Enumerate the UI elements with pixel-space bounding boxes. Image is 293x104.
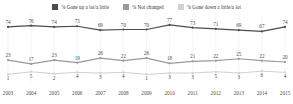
data-point <box>215 60 217 62</box>
x-tick-label: 2014 <box>257 90 267 96</box>
value-label: 19 <box>75 56 80 61</box>
value-label: 25 <box>236 52 241 57</box>
value-label: 23 <box>5 53 10 58</box>
data-point <box>238 58 240 60</box>
data-point <box>215 28 217 30</box>
legend-label-not-changed: % Not changed <box>132 4 164 10</box>
x-tick-label: 2006 <box>72 90 82 96</box>
value-label: 69 <box>98 23 103 28</box>
value-label: 74 <box>52 20 57 25</box>
data-point <box>30 63 32 65</box>
value-label: 20 <box>282 55 287 60</box>
value-label: 18 <box>167 56 172 61</box>
value-label: 4 <box>284 74 287 79</box>
value-label: 73 <box>190 21 195 26</box>
data-point <box>145 28 147 30</box>
value-label: 4 <box>76 74 79 79</box>
x-tick-label: 2004 <box>26 90 36 96</box>
x-tick-label: 2007 <box>95 90 105 96</box>
data-point <box>99 29 101 31</box>
value-label: 67 <box>259 24 264 29</box>
data-point <box>284 61 286 63</box>
legend-swatch-gone-down <box>178 4 184 10</box>
x-tick-label: 2013 <box>234 90 244 96</box>
data-point <box>30 25 32 27</box>
x-axis: 2003200420052006200720082009201020112012… <box>0 90 293 102</box>
x-tick-label: 2008 <box>118 90 128 96</box>
value-label: 17 <box>28 57 33 62</box>
legend-swatch-not-changed <box>123 4 129 10</box>
legend-swatch-gone-up <box>52 4 58 10</box>
value-label: 23 <box>52 53 57 58</box>
data-point <box>145 57 147 59</box>
value-label: 3 <box>168 75 171 80</box>
legend-item-not-changed: % Not changed <box>123 4 164 10</box>
x-tick-label: 2005 <box>49 90 59 96</box>
value-label: 3 <box>238 75 241 80</box>
data-point <box>192 60 194 62</box>
data-point <box>99 57 101 59</box>
value-label: 22 <box>121 54 126 59</box>
data-point <box>122 60 124 62</box>
legend-label-gone-up: % Gone up a lot/a little <box>61 4 109 10</box>
data-point <box>261 60 263 62</box>
data-point <box>284 26 286 28</box>
value-label: 74 <box>282 20 287 25</box>
value-label: 71 <box>213 22 218 27</box>
x-tick-label: 2010 <box>164 90 174 96</box>
data-point <box>192 26 194 28</box>
x-tick-label: 2011 <box>188 90 198 96</box>
value-label: 4 <box>122 74 125 79</box>
data-point <box>168 62 170 64</box>
data-point <box>53 59 55 61</box>
value-label: 22 <box>259 54 264 59</box>
value-label: 76 <box>28 19 33 24</box>
legend-item-gone-up: % Gone up a lot/a little <box>52 4 109 10</box>
data-point <box>122 28 124 30</box>
value-label: 3 <box>99 75 102 80</box>
legend-label-gone-down: % Gone down a little/a lot <box>187 4 241 10</box>
x-tick-label: 2015 <box>280 90 290 96</box>
value-label: 5 <box>30 74 33 79</box>
data-point <box>53 26 55 28</box>
legend-item-gone-down: % Gone down a little/a lot <box>178 4 241 10</box>
value-label: 1 <box>7 76 10 81</box>
x-tick-label: 2012 <box>211 90 221 96</box>
value-label: 1 <box>145 76 148 81</box>
value-label: 70 <box>144 23 149 28</box>
value-label: 6 <box>261 73 264 78</box>
data-point <box>76 25 78 27</box>
value-label: 77 <box>167 18 172 23</box>
data-point <box>261 30 263 32</box>
value-label: 74 <box>5 20 10 25</box>
value-label: 26 <box>98 51 103 56</box>
value-label: 26 <box>144 51 149 56</box>
data-point <box>76 62 78 64</box>
data-point <box>238 29 240 31</box>
value-label: 70 <box>121 23 126 28</box>
data-point <box>168 24 170 26</box>
data-point <box>7 26 9 28</box>
line-chart: % Gone up a lot/a little % Not changed %… <box>0 0 293 104</box>
value-label: 75 <box>75 19 80 24</box>
value-label: 21 <box>190 54 195 59</box>
value-label: 2 <box>53 76 56 81</box>
value-label: 3 <box>191 75 194 80</box>
x-tick-label: 2009 <box>141 90 151 96</box>
data-point <box>7 59 9 61</box>
x-tick-label: 2003 <box>3 90 13 96</box>
chart-legend: % Gone up a lot/a little % Not changed %… <box>0 1 293 12</box>
value-label: 5 <box>214 74 217 79</box>
value-label: 69 <box>236 23 241 28</box>
value-label: 22 <box>213 54 218 59</box>
